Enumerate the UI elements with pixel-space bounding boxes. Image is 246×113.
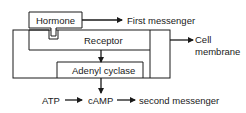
camp-label: cAMP (88, 95, 113, 106)
receptor-label: Receptor (84, 35, 123, 46)
membrane-label: membrane (195, 46, 240, 57)
hormone-label: Hormone (36, 15, 75, 26)
cell-label: Cell (195, 34, 211, 45)
adenyl-cyclase-label: Adenyl cyclase (72, 65, 135, 76)
first-messenger-label: First messenger (127, 15, 195, 26)
diagram-canvas: Hormone First messenger Receptor Cell me… (0, 0, 246, 113)
atp-label: ATP (42, 95, 60, 106)
second-messenger-label: second messenger (139, 95, 219, 106)
